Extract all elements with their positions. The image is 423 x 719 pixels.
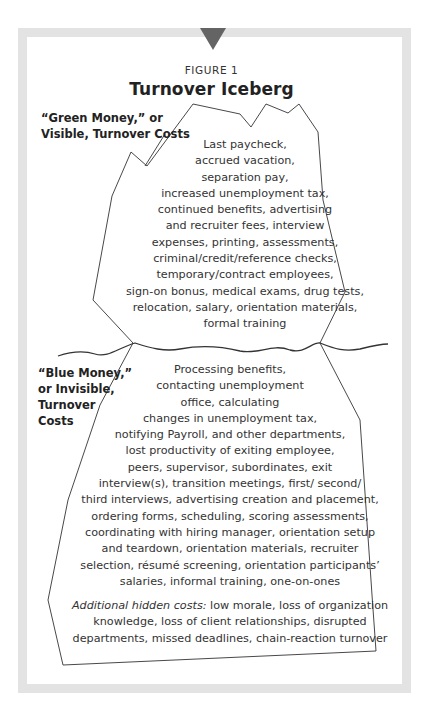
marker-triangle-icon — [200, 28, 226, 50]
additional-costs-label: Additional hidden costs: — [72, 599, 207, 612]
waterline — [58, 343, 388, 356]
figure-label: FIGURE 1 — [0, 64, 423, 76]
visible-costs-list: Last paycheck, accrued vacation, separat… — [120, 137, 370, 333]
additional-hidden-costs: Additional hidden costs: low morale, los… — [50, 598, 410, 647]
figure-title: Turnover Iceberg — [0, 79, 423, 99]
hidden-costs-list: Processing benefits, contacting unemploy… — [60, 362, 400, 590]
